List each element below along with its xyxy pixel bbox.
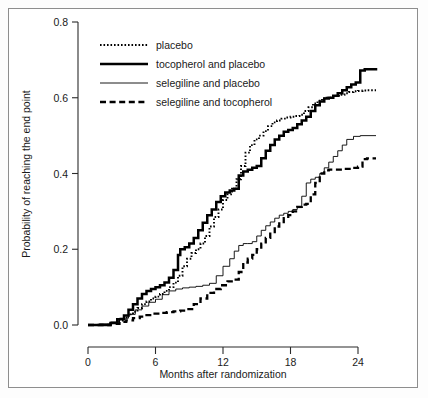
- x-axis-group: 06121824 Months after randomization: [85, 347, 364, 380]
- x-tick-label: 0: [85, 356, 91, 368]
- legend-label: selegiline and tocopherol: [156, 96, 272, 108]
- y-axis-group: 0.00.20.40.60.8 Probability of reaching …: [20, 16, 78, 331]
- y-axis-title: Probability of reaching the end point: [20, 90, 32, 258]
- y-tick-label: 0.2: [53, 243, 68, 255]
- legend-label: selegiline and placebo: [156, 77, 260, 89]
- x-tick-label: 12: [217, 356, 229, 368]
- y-tick-label: 0.8: [53, 16, 68, 28]
- figure-root: 0.00.20.40.60.8 Probability of reaching …: [0, 0, 428, 398]
- legend-label: placebo: [156, 39, 193, 51]
- series-line-placebo: [88, 90, 376, 325]
- x-axis-ticks: 06121824: [85, 347, 364, 368]
- x-axis-title: Months after randomization: [159, 368, 286, 380]
- y-tick-label: 0.4: [53, 168, 68, 180]
- legend-label: tocopherol and placebo: [156, 58, 265, 70]
- y-axis-ticks: 0.00.20.40.60.8: [53, 16, 78, 331]
- x-tick-label: 24: [352, 356, 364, 368]
- series-line-selegiline-and-placebo: [88, 136, 376, 325]
- y-tick-label: 0.6: [53, 92, 68, 104]
- y-tick-label: 0.0: [53, 319, 68, 331]
- x-tick-label: 6: [153, 356, 159, 368]
- chart-canvas: 0.00.20.40.60.8 Probability of reaching …: [0, 0, 428, 398]
- chart-legend: placebotocopherol and placeboselegiline …: [100, 39, 272, 108]
- x-tick-label: 18: [285, 356, 297, 368]
- series-line-selegiline-and-tocopherol: [88, 158, 376, 325]
